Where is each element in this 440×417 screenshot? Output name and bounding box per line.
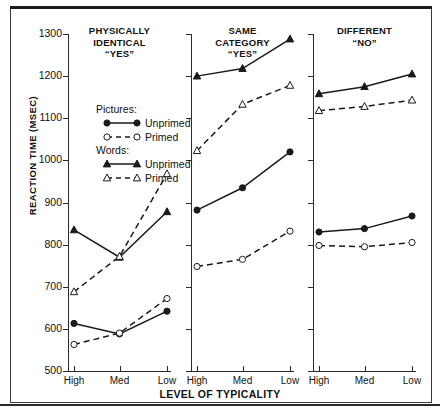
solid-line-filled-triangle-icon xyxy=(102,158,142,170)
legend-item-label: Unprimed xyxy=(145,117,191,130)
open-triangle-marker xyxy=(408,96,415,103)
open-circle-marker xyxy=(104,134,110,140)
filled-circle-marker xyxy=(104,120,110,126)
solid-line-filled-circle-icon xyxy=(102,117,142,129)
x-axis-title: LEVEL OF TYPICALITY xyxy=(0,388,440,400)
legend-group-pictures-heading: Pictures: xyxy=(96,103,191,116)
panel-series-3 xyxy=(0,0,440,417)
filled-circle-marker xyxy=(361,226,367,232)
open-circle-marker xyxy=(409,239,415,245)
filled-circle-marker xyxy=(409,213,415,219)
legend-item: Unprimed xyxy=(102,157,191,171)
dashed-line-open-triangle-icon xyxy=(102,172,142,184)
filled-circle-marker xyxy=(316,229,322,235)
open-circle-marker xyxy=(316,242,322,248)
filled-triangle-marker xyxy=(408,70,415,77)
open-triangle-marker xyxy=(361,102,368,109)
open-circle-marker xyxy=(361,244,367,250)
filled-circle-marker xyxy=(134,120,140,126)
legend-item-label: Primed xyxy=(145,172,178,185)
figure-container: REACTION TIME (MSEC) 1300120011001000900… xyxy=(0,0,440,417)
bottom-rule xyxy=(0,404,440,406)
legend-item-label: Primed xyxy=(145,131,178,144)
legend: Pictures:UnprimedPrimedWords:UnprimedPri… xyxy=(96,103,191,185)
open-circle-marker xyxy=(134,134,140,140)
legend-group-words-heading: Words: xyxy=(96,144,191,157)
legend-item: Primed xyxy=(102,171,191,185)
legend-item: Primed xyxy=(102,130,191,144)
dashed-line-open-circle-icon xyxy=(102,131,142,143)
legend-item-label: Unprimed xyxy=(145,158,191,171)
legend-item: Unprimed xyxy=(102,116,191,130)
